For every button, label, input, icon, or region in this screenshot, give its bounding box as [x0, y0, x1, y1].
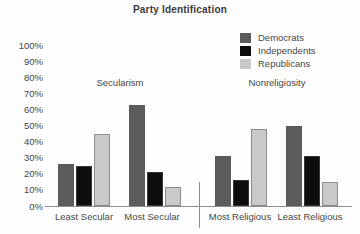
chart-title: Party Identification — [0, 4, 360, 15]
bar-independents-least-secular — [76, 166, 92, 206]
independents-swatch-icon — [240, 46, 251, 56]
legend: Democrats Independents Republicans — [240, 31, 316, 70]
bar-democrats-least-religious — [286, 126, 302, 207]
bar-democrats-most-religious — [215, 156, 231, 206]
legend-item-democrats: Democrats — [240, 31, 316, 44]
bar-democrats-least-secular — [58, 164, 74, 206]
bar-republicans-least-religious — [322, 182, 338, 206]
y-tick-label: 10% — [24, 184, 43, 195]
bar-independents-most-religious — [233, 180, 249, 206]
y-tick-label: 50% — [24, 120, 43, 131]
x-category-label: Least Religious — [265, 211, 355, 222]
bar-independents-least-religious — [304, 156, 320, 206]
legend-label: Republicans — [258, 58, 310, 69]
y-tick-label: 100% — [19, 40, 43, 51]
bar-republicans-most-secular — [165, 187, 181, 206]
legend-item-republicans: Republicans — [240, 57, 316, 70]
y-tick-label: 80% — [24, 72, 43, 83]
legend-label: Independents — [258, 45, 316, 56]
republicans-swatch-icon — [240, 59, 251, 69]
bar-democrats-most-secular — [129, 105, 145, 206]
section-label-secularism: Secularism — [60, 77, 180, 88]
y-tick-label: 70% — [24, 88, 43, 99]
x-category-label: Most Secular — [107, 211, 197, 222]
party-identification-chart: Party Identification Democrats Independe… — [0, 0, 360, 234]
bar-independents-most-secular — [147, 172, 163, 206]
y-tick-label: 90% — [24, 56, 43, 67]
y-tick-label: 20% — [24, 168, 43, 179]
section-label-nonreligiosity: Nonreligiosity — [217, 77, 337, 88]
y-tick-label: 0% — [29, 201, 43, 212]
democrats-swatch-icon — [240, 33, 251, 43]
legend-item-independents: Independents — [240, 44, 316, 57]
y-tick-label: 60% — [24, 104, 43, 115]
y-tick-label: 40% — [24, 136, 43, 147]
bar-republicans-most-religious — [251, 129, 267, 206]
legend-label: Democrats — [258, 32, 304, 43]
bar-republicans-least-secular — [94, 134, 110, 206]
y-tick-label: 30% — [24, 152, 43, 163]
